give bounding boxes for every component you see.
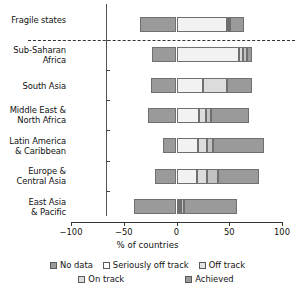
- bar-segment-no-data: [134, 199, 176, 214]
- x-tick: [229, 222, 230, 226]
- legend-item-achieved: Achieved: [185, 274, 233, 284]
- legend-item-no-data: No data: [50, 260, 93, 270]
- legend-item-on-track: On track: [78, 274, 124, 284]
- bar-segment-achieved: [213, 138, 264, 153]
- legend-swatch-on-track: [78, 276, 85, 283]
- x-tick-label: 100: [274, 227, 290, 237]
- bar-segment-no-data: [148, 108, 176, 123]
- bar-segment-no-data: [151, 78, 176, 93]
- bar-row: [71, 78, 282, 93]
- row-tick-1: [106, 70, 110, 71]
- legend-label-off-track: Off track: [209, 260, 245, 270]
- legend-swatch-off-track: [199, 262, 206, 269]
- bar-segment-off-track: [199, 108, 206, 123]
- x-tick-label: 50: [224, 227, 235, 237]
- bar-segment-off-track: [198, 138, 207, 153]
- x-axis-title: % of countries: [0, 240, 295, 250]
- bar-row: [71, 47, 282, 62]
- x-tick-label: −100: [59, 227, 82, 237]
- legend-row-1: No data Seriously off track Off track: [0, 258, 295, 272]
- x-tick-label: −50: [115, 227, 133, 237]
- bar-row: [71, 199, 282, 214]
- x-tick: [282, 222, 283, 226]
- legend-item-off-track: Off track: [199, 260, 245, 270]
- stacked-bar-chart: Fragile states Sub-Saharan Africa South …: [0, 0, 295, 296]
- legend-item-seriously-off-track: Seriously off track: [103, 260, 189, 270]
- bar-row: [71, 108, 282, 123]
- bar-segment-seriously-off-track: [177, 138, 198, 153]
- category-label-east-asia-pacific: East Asia & Pacific: [29, 197, 66, 217]
- plot-area: [71, 10, 282, 222]
- x-tick: [71, 222, 72, 226]
- bar-segment-seriously-off-track: [177, 169, 197, 184]
- x-tick: [177, 222, 178, 226]
- bar-row: [71, 169, 282, 184]
- bar-segment-no-data: [140, 17, 177, 32]
- legend-swatch-no-data: [50, 262, 57, 269]
- category-label-fragile-states: Fragile states: [11, 15, 66, 25]
- category-label-sub-saharan-africa: Sub-Saharan Africa: [13, 45, 66, 65]
- bar-row: [71, 17, 282, 32]
- legend-swatch-seriously-off-track: [103, 262, 110, 269]
- bar-segment-seriously-off-track: [177, 78, 203, 93]
- category-axis-labels: Fragile states Sub-Saharan Africa South …: [0, 0, 66, 222]
- zero-reference-line: [106, 4, 107, 216]
- x-tick-label: 0: [174, 227, 179, 237]
- legend-row-2: On track Achieved: [0, 272, 295, 286]
- category-label-middle-east-north-africa: Middle East & North Africa: [10, 105, 66, 125]
- bar-segment-seriously-off-track: [177, 108, 199, 123]
- bar-segment-seriously-off-track: [177, 47, 239, 62]
- chart-legend: No data Seriously off track Off track On…: [0, 258, 295, 286]
- bar-segment-off-track: [197, 169, 208, 184]
- bar-row: [71, 138, 282, 153]
- x-tick: [124, 222, 125, 226]
- bar-segment-achieved: [227, 78, 252, 93]
- bar-segment-achieved: [218, 169, 259, 184]
- bar-segment-achieved: [230, 17, 244, 32]
- row-tick-4: [106, 161, 110, 162]
- bar-segment-achieved: [247, 47, 252, 62]
- row-tick-2: [106, 100, 110, 101]
- row-tick-5: [106, 191, 110, 192]
- category-label-south-asia: South Asia: [22, 81, 66, 91]
- row-tick-3: [106, 130, 110, 131]
- bar-segment-seriously-off-track: [177, 17, 228, 32]
- bar-segment-on-track: [207, 169, 218, 184]
- bar-segment-achieved: [184, 199, 237, 214]
- row-tick-0: [106, 40, 110, 41]
- legend-swatch-achieved: [185, 276, 192, 283]
- legend-label-achieved: Achieved: [195, 274, 233, 284]
- category-label-europe-central-asia: Europe & Central Asia: [16, 166, 66, 186]
- legend-label-no-data: No data: [60, 260, 93, 270]
- bar-segment-achieved: [211, 108, 249, 123]
- legend-label-on-track: On track: [88, 274, 124, 284]
- bar-segment-no-data: [163, 138, 177, 153]
- bar-segment-off-track: [203, 78, 227, 93]
- category-label-latin-america-caribbean: Latin America & Caribbean: [9, 136, 66, 156]
- bar-segment-no-data: [155, 169, 176, 184]
- legend-label-seriously-off-track: Seriously off track: [113, 260, 189, 270]
- bar-segment-no-data: [152, 47, 176, 62]
